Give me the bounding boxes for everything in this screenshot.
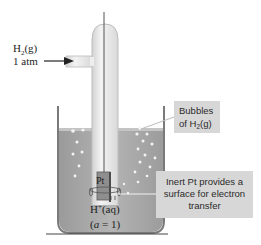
bubble <box>135 132 138 135</box>
bubble <box>78 165 81 168</box>
bubbles-callout-line2: of H2(g) <box>179 118 212 130</box>
bubbles-callout-line1: Bubbles <box>179 105 214 116</box>
solution-activity-label: (a = 1) <box>90 218 120 231</box>
bubble <box>137 148 140 151</box>
bubble <box>146 175 149 178</box>
bubble <box>139 161 142 164</box>
inert-pt-callout-line2: surface for electron <box>164 188 245 199</box>
arm-joint <box>90 57 94 66</box>
bubble <box>149 166 152 169</box>
bubble <box>134 171 137 174</box>
bubble <box>137 181 140 184</box>
inert-pt-callout-line1: Inert Pt provides a <box>166 176 244 187</box>
bubble <box>81 151 84 154</box>
bubble <box>144 154 147 157</box>
bubble <box>146 133 149 136</box>
bubble <box>154 157 157 160</box>
solution-species-label: H+(aq) <box>90 203 120 216</box>
inert-pt-callout-line3: transfer <box>188 200 220 211</box>
bubbles-callout-leader <box>141 117 174 129</box>
electrode-label: Pt <box>96 175 105 186</box>
bubble <box>72 153 75 156</box>
bubble <box>142 140 145 143</box>
gas-label-line2: 1 atm <box>13 55 38 67</box>
bubble <box>123 183 125 185</box>
bubble <box>151 143 154 146</box>
bubble <box>81 128 84 131</box>
bubble <box>74 175 77 178</box>
bubble <box>76 141 79 144</box>
bubble <box>71 129 75 133</box>
hydrogen-electrode-diagram: Pt H2(g) 1 atm H+(aq) (a = 1) Bubbles of… <box>0 0 261 245</box>
